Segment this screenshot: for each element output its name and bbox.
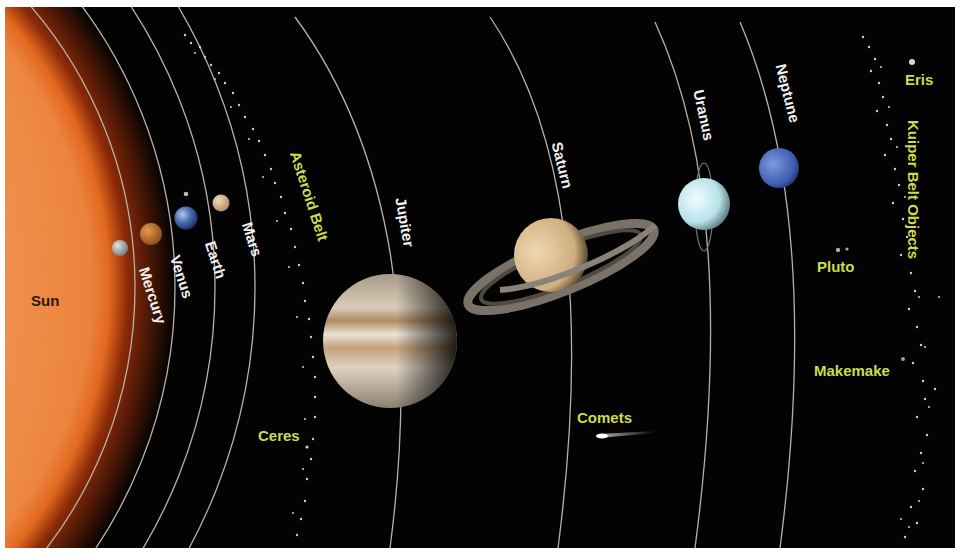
solar-system-diagram: Sun Mercury Venus Earth Mars Jupiter Sat… xyxy=(5,7,955,548)
comets-label: Comets xyxy=(577,409,632,426)
eris-icon xyxy=(909,59,915,65)
ceres-label: Ceres xyxy=(258,427,300,444)
eris-label: Eris xyxy=(905,71,933,88)
makemake-label: Makemake xyxy=(814,362,890,379)
venus-icon xyxy=(140,223,162,245)
pluto-icon xyxy=(836,248,840,252)
kuiper-belt-dots xyxy=(862,36,940,538)
neptune-icon xyxy=(759,148,799,188)
saturn-icon xyxy=(459,207,662,326)
pluto-label: Pluto xyxy=(817,258,855,275)
mercury-icon xyxy=(112,240,128,256)
charon-icon xyxy=(845,247,848,250)
uranus-icon xyxy=(678,163,730,251)
asteroid-belt-dots xyxy=(184,34,316,536)
comet-icon xyxy=(596,431,655,439)
kuiper-belt-label: Kuiper Belt Objects xyxy=(905,120,922,259)
jupiter-icon xyxy=(323,274,457,408)
moon-icon xyxy=(184,192,189,197)
sun-label: Sun xyxy=(31,292,59,309)
earth-icon xyxy=(175,207,198,230)
mars-icon xyxy=(213,195,230,212)
makemake-icon xyxy=(901,357,905,361)
